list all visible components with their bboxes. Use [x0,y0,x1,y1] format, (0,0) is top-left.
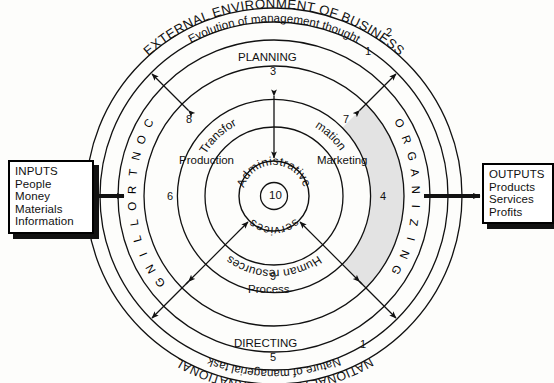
svg-text:I: I [137,251,149,258]
outputs-item: Products [489,181,547,194]
svg-text:N: N [129,151,143,162]
transformation-number-right: 7 [343,113,349,125]
svg-text:I: I [410,204,422,208]
svg-text:G: G [389,263,404,277]
svg-text:I: I [405,236,417,242]
svg-text:L: L [128,218,141,227]
core-label-top: Administrative [234,154,315,189]
second-bottom-number: 1 [360,338,366,350]
directing-number: 5 [270,351,276,363]
organizing-number: 4 [380,190,386,202]
outer-top-number: 2 [386,26,392,38]
svg-text:L: L [130,234,143,244]
svg-text:T: T [127,168,140,176]
core-label-bottom: services [246,216,303,238]
inputs-item: Materials [15,203,87,216]
svg-text:G: G [405,150,419,162]
svg-text:N: N [143,262,158,275]
svg-text:N: N [398,248,412,260]
controlling-number: 6 [167,190,173,202]
svg-text:R: R [126,185,138,194]
outputs-heading: OUTPUTS [489,168,547,181]
outputs-box: OUTPUTS Products Services Profits [482,163,554,224]
svg-text:Z: Z [407,218,420,227]
planning-label: PLANNING [238,51,297,63]
inputs-item: People [15,178,87,191]
svg-text:C: C [141,117,155,130]
marketing-label: Marketing [317,154,368,166]
svg-text:O: O [126,201,138,211]
core-number: 10 [269,189,282,201]
controlling-label: C O N T R O L L I N G [126,117,167,290]
svg-text:N: N [410,185,422,194]
process-number: 9 [270,270,276,282]
process-label: Process [248,283,290,295]
outputs-item: Profits [489,206,547,219]
svg-text:A: A [409,168,422,177]
second-top-number: 1 [365,45,371,57]
production-label: Production [179,154,234,166]
svg-text:O: O [392,116,407,130]
organizing-shaded-band [343,104,405,288]
inputs-item: Money [15,190,87,203]
svg-text:R: R [400,134,414,146]
inputs-box: INPUTS People Money Materials Informatio… [8,160,94,234]
planning-number: 3 [270,65,276,77]
svg-text:O: O [134,133,148,146]
svg-text:G: G [152,275,167,289]
inputs-heading: INPUTS [15,165,87,178]
outputs-item: Services [489,193,547,206]
transformation-number-left: 8 [186,113,192,125]
directing-label: DIRECTING [234,337,297,349]
transformation-label-left: Transfor [196,115,238,156]
inputs-item: Information [15,215,87,228]
